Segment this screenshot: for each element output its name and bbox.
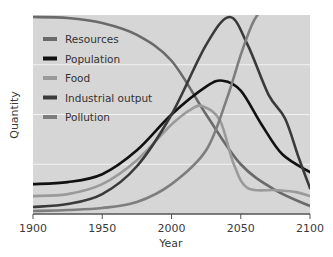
legend-label: Population: [65, 53, 120, 65]
x-axis-label: Year: [158, 237, 183, 250]
chart: 19001950200020502100 Year Quantity Resou…: [0, 0, 333, 257]
legend-label: Food: [65, 72, 90, 84]
y-axis-label: Quantity: [8, 91, 21, 139]
legend-label: Resources: [65, 33, 119, 45]
x-tick-label: 2100: [296, 222, 324, 235]
x-tick-label: 2000: [158, 222, 186, 235]
x-tick-label: 1900: [19, 222, 47, 235]
legend-label: Industrial output: [65, 92, 152, 104]
x-ticks: 19001950200020502100: [19, 214, 324, 235]
x-tick-label: 1950: [88, 222, 116, 235]
legend-label: Pollution: [65, 111, 110, 123]
x-tick-label: 2050: [227, 222, 255, 235]
